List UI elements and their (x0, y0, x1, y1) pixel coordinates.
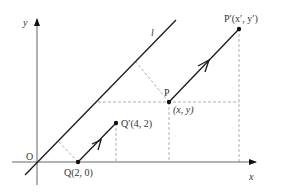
q-perpendicular-dashed (58, 141, 78, 162)
line-l-label: l (151, 27, 154, 38)
point-q-label: Q(2, 0) (64, 167, 93, 179)
x-axis-label: x (248, 171, 254, 182)
point-q-prime-label: Q′(4, 2) (121, 118, 152, 130)
point-p-prime-label: P′(x′, y′) (224, 13, 258, 25)
diagram-canvas: y x O l P (x, y) P′(x′, y′) Q(2, 0) Q′(4… (0, 0, 281, 192)
y-axis-label: y (22, 17, 28, 28)
arrow-chevron-icon (92, 140, 101, 150)
point-p (167, 100, 171, 104)
point-p-label: P (164, 87, 170, 98)
vector-q-to-q-prime (78, 123, 116, 162)
line-l (25, 20, 176, 175)
point-p-prime (237, 27, 241, 31)
point-q-prime (114, 121, 118, 125)
origin-label: O (26, 151, 33, 162)
vector-p-to-p-prime (169, 29, 239, 102)
point-q (76, 160, 80, 164)
point-p-coord-label: (x, y) (173, 104, 194, 116)
